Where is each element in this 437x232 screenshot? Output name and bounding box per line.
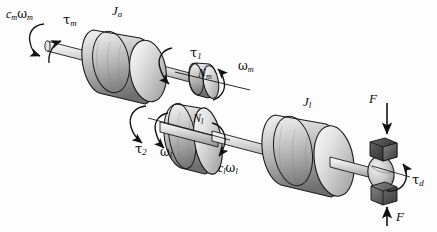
armature-inertia-disk bbox=[82, 29, 171, 105]
motor-shaft-assembly bbox=[45, 29, 250, 105]
label-load-inertia: Jl bbox=[303, 95, 311, 110]
label-brake-force-top: F bbox=[369, 92, 377, 105]
label-load-angular-velocity: ωl bbox=[160, 146, 172, 160]
label-motor-torque: τm bbox=[63, 13, 77, 28]
mechanical-diagram-figure: cmωm τm Ja τ1 Nm ωm Nl τ2 ωl clωl Jl F F… bbox=[0, 0, 437, 232]
label-motor-gear-teeth: Nm bbox=[198, 67, 212, 81]
label-load-gear-teeth: Nl bbox=[193, 112, 203, 126]
label-motor-damping-torque: cmωm bbox=[6, 8, 33, 22]
label-disturbance-torque: τd bbox=[412, 173, 424, 188]
brake-pad-top bbox=[370, 138, 397, 161]
arrow-motor-damping bbox=[30, 24, 44, 56]
diagram-canvas bbox=[0, 0, 437, 232]
label-gear-torque-1: τ1 bbox=[190, 46, 202, 61]
label-motor-angular-velocity: ωm bbox=[238, 60, 254, 74]
label-load-damping-torque: clωl bbox=[218, 162, 238, 176]
load-inertia-disk bbox=[262, 113, 359, 199]
load-shaft-assembly bbox=[148, 101, 410, 205]
brake-pad-bottom bbox=[371, 182, 397, 205]
arrow-gear-torque-2 bbox=[130, 106, 146, 143]
label-armature-inertia: Ja bbox=[112, 4, 122, 19]
label-brake-force-bottom: F bbox=[396, 210, 404, 223]
label-gear-torque-2: τ2 bbox=[135, 142, 147, 157]
